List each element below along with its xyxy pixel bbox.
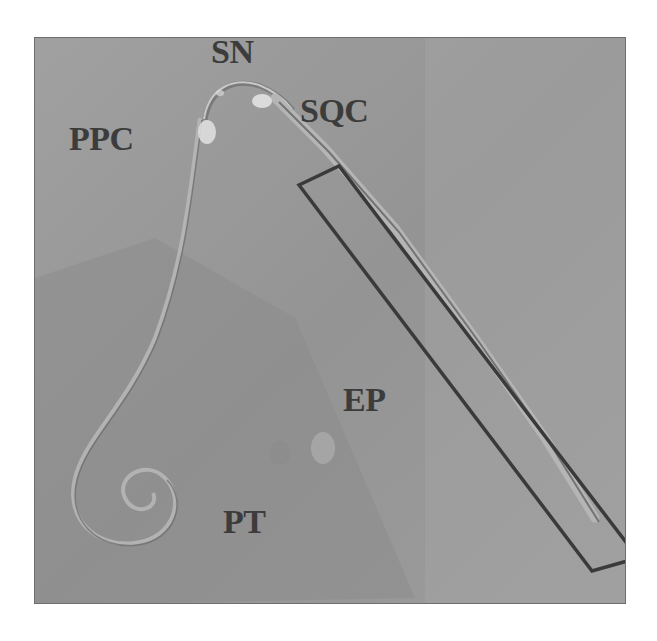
label-sqc: SQC (300, 94, 368, 128)
label-sn: SN (211, 37, 253, 69)
micrograph-figure: SN PPC SQC EP PT (34, 37, 626, 604)
label-ppc: PPC (69, 122, 134, 156)
label-ep: EP (343, 383, 385, 417)
label-pt: PT (223, 505, 265, 539)
